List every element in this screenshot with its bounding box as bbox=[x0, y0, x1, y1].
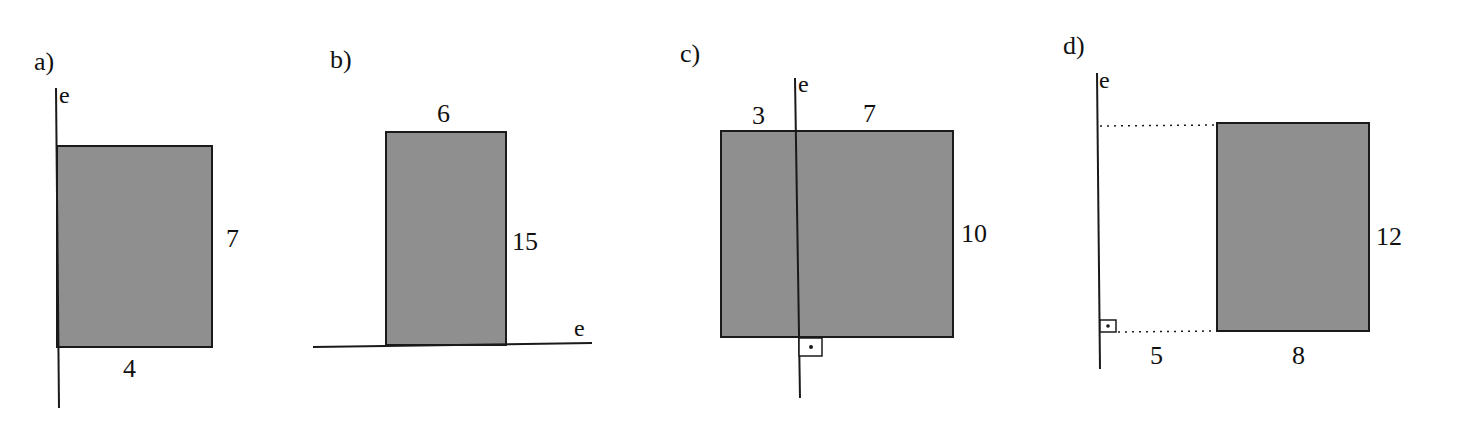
figure-c-rectangle bbox=[721, 131, 953, 337]
figure-a-rectangle bbox=[57, 146, 212, 347]
figure-c-left-width-label: 3 bbox=[752, 101, 765, 130]
figure-c-height-label: 10 bbox=[961, 219, 987, 248]
figure-a-label: a) bbox=[34, 47, 54, 76]
figure-d-width-label: 8 bbox=[1292, 341, 1305, 370]
figure-a-width-label: 4 bbox=[123, 354, 136, 383]
figure-d-height-label: 12 bbox=[1376, 222, 1402, 251]
figure-b-height-label: 15 bbox=[512, 227, 538, 256]
right-angle-dot bbox=[809, 345, 813, 349]
figure-b-width-label: 6 bbox=[437, 99, 450, 128]
figure-c: c) e 3 7 10 bbox=[680, 39, 987, 398]
figure-d-axis-label: e bbox=[1099, 67, 1110, 93]
figure-b: b) e 6 15 bbox=[313, 45, 592, 347]
figure-d-rectangle bbox=[1217, 123, 1369, 331]
figure-c-axis-label: e bbox=[798, 71, 809, 97]
figure-c-label: c) bbox=[680, 39, 700, 68]
figure-b-axis-label: e bbox=[574, 315, 585, 341]
figure-b-rectangle bbox=[386, 132, 506, 345]
figure-d-top-projection-line bbox=[1100, 125, 1215, 126]
figure-a: a) e 4 7 bbox=[34, 47, 239, 408]
right-angle-dot bbox=[1106, 324, 1110, 328]
figure-d: d) e 5 8 12 bbox=[1063, 31, 1402, 370]
diagram-canvas: a) e 4 7 b) e 6 15 c) e 3 7 10 d) e 5 bbox=[0, 0, 1473, 436]
figure-d-bottom-projection-line bbox=[1118, 331, 1216, 332]
figure-d-distance-label: 5 bbox=[1150, 341, 1163, 370]
figure-d-label: d) bbox=[1063, 31, 1085, 60]
figure-a-height-label: 7 bbox=[226, 224, 239, 253]
figure-a-axis-label: e bbox=[59, 82, 70, 108]
figure-c-right-width-label: 7 bbox=[863, 99, 876, 128]
figure-b-label: b) bbox=[330, 45, 352, 74]
